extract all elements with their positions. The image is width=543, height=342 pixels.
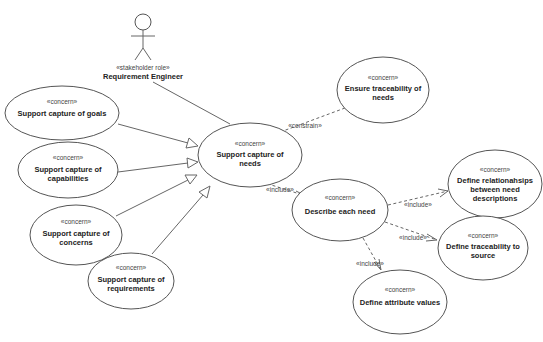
edge-requirements-needs (152, 195, 203, 254)
svg-text:Support capture of goals: Support capture of goals (18, 109, 107, 118)
open-arrow-icon (426, 234, 437, 241)
svg-text:Support capture of: Support capture of (216, 150, 284, 159)
svg-text:Define attribute values: Define attribute values (360, 298, 440, 307)
svg-text:Define relationahsips: Define relationahsips (457, 176, 533, 185)
actor-requirement-engineer: «stakeholder role» Requirement Engineer (103, 14, 183, 81)
node-needs: «concern» Support capture of needs (198, 123, 302, 187)
open-arrow-icon (438, 189, 448, 197)
node-capabilities: «concern» Support capture of capabilitie… (18, 142, 118, 198)
edge-label-include-1: «include» (266, 186, 294, 193)
svg-text:source: source (471, 251, 496, 260)
svg-text:capabilities: capabilities (48, 174, 89, 183)
svg-text:Support capture of: Support capture of (42, 229, 110, 238)
edge-concerns-needs (116, 180, 188, 216)
svg-text:between need: between need (470, 185, 520, 194)
edge-label-include-4: «include» (356, 260, 384, 267)
svg-text:«concern»: «concern» (385, 286, 416, 293)
generalization-arrow-icon (186, 138, 198, 148)
use-case-diagram: «stakeholder role» Requirement Engineer … (0, 0, 543, 342)
edge-capabilities-needs (118, 163, 188, 172)
svg-text:Support capture of: Support capture of (34, 165, 102, 174)
edge-actor-needs (153, 82, 230, 124)
edge-label-include-2: «include» (404, 201, 432, 208)
actor-stereotype: «stakeholder role» (116, 64, 170, 71)
edge-label-include-3: «include» (399, 234, 427, 241)
node-requirements: «concern» Support capture of requirement… (88, 253, 174, 309)
svg-text:«concern»: «concern» (53, 154, 84, 161)
node-ensure-traceability: «concern» Ensure traceability of needs (337, 57, 429, 123)
svg-text:requirements: requirements (107, 284, 155, 293)
generalization-arrow-icon (185, 175, 197, 184)
node-define-attribute-values: «concern» Define attribute values (353, 270, 447, 334)
edge-goals-needs (118, 124, 188, 143)
node-describe-each-need: «concern» Describe each need (292, 179, 388, 241)
svg-text:«concern»: «concern» (116, 264, 147, 271)
svg-text:«concern»: «concern» (325, 194, 356, 201)
svg-text:needs: needs (372, 93, 394, 102)
generalization-arrow-icon (187, 158, 198, 168)
svg-text:«concern»: «concern» (368, 74, 399, 81)
node-define-traceability-source: «concern» Define traceability to source (438, 216, 528, 280)
generalization-arrow-icon (199, 186, 210, 198)
svg-text:Define traceability to: Define traceability to (446, 242, 520, 251)
svg-text:«concern»: «concern» (480, 166, 511, 173)
actor-name: Requirement Engineer (103, 72, 183, 81)
node-define-relationships: «concern» Define relationahsips between … (448, 150, 542, 218)
node-goals: «concern» Support capture of goals (5, 86, 119, 140)
actor-head-icon (135, 14, 151, 30)
svg-text:«concern»: «concern» (468, 232, 499, 239)
svg-text:«concern»: «concern» (47, 98, 78, 105)
svg-text:Describe each need: Describe each need (305, 207, 376, 216)
svg-text:«concern»: «concern» (61, 218, 92, 225)
edge-label-constrain: «constrain» (288, 122, 322, 129)
svg-text:Support capture of: Support capture of (97, 275, 165, 284)
svg-text:Ensure traceability of: Ensure traceability of (345, 84, 422, 93)
svg-text:concerns: concerns (59, 238, 92, 247)
svg-text:descriptions: descriptions (473, 194, 518, 203)
svg-text:needs: needs (239, 159, 261, 168)
node-concerns: «concern» Support capture of concerns (30, 205, 122, 265)
svg-text:«concern»: «concern» (235, 140, 266, 147)
